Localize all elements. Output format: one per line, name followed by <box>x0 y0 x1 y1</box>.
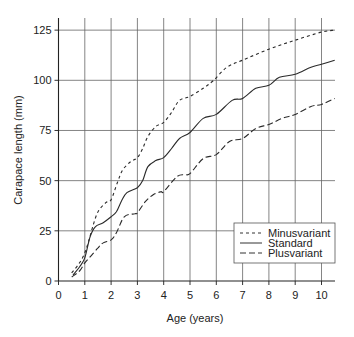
x-tick-label: 8 <box>266 289 272 301</box>
x-axis-label: Age (years) <box>167 312 224 324</box>
y-tick-label: 50 <box>39 175 51 187</box>
y-tick-label: 25 <box>39 225 51 237</box>
x-tick-label: 5 <box>187 289 193 301</box>
y-tick-label: 125 <box>33 24 51 36</box>
legend: Minusvariant Standard Plusvariant <box>234 223 335 263</box>
y-tick-label: 100 <box>33 74 51 86</box>
y-axis-label: Carapace length (mm) <box>12 95 24 204</box>
x-tick-label: 9 <box>292 289 298 301</box>
y-tick-label: 75 <box>39 124 51 136</box>
x-tick-label: 7 <box>240 289 246 301</box>
growth-chart: 012345678910 0255075100125 Age (years) C… <box>0 0 354 337</box>
x-tick-label: 2 <box>108 289 114 301</box>
x-tick-label: 3 <box>134 289 140 301</box>
x-tick-label: 10 <box>315 289 327 301</box>
legend-label-plusvariant: Plusvariant <box>268 247 322 259</box>
x-tick-label: 4 <box>161 289 167 301</box>
y-tick-labels: 0255075100125 <box>33 24 51 287</box>
x-tick-labels: 012345678910 <box>55 289 327 301</box>
y-tick-label: 0 <box>45 275 51 287</box>
x-tick-label: 6 <box>213 289 219 301</box>
x-tick-label: 0 <box>55 289 61 301</box>
x-tick-label: 1 <box>82 289 88 301</box>
